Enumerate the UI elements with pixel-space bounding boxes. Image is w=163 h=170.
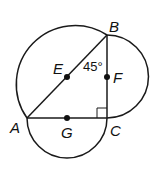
diagram-canvas: A B C E F G 45°: [0, 0, 163, 170]
label-c: C: [110, 122, 121, 139]
label-g: G: [61, 124, 73, 141]
label-e: E: [53, 60, 64, 77]
label-b: B: [109, 18, 119, 35]
label-a: A: [9, 119, 20, 136]
point-e: [64, 74, 70, 80]
point-g: [64, 115, 70, 121]
point-f: [104, 74, 110, 80]
right-angle-marker: [97, 108, 107, 118]
angle-label: 45°: [83, 59, 103, 74]
geometry-diagram: A B C E F G 45°: [0, 0, 163, 170]
label-f: F: [113, 69, 123, 86]
